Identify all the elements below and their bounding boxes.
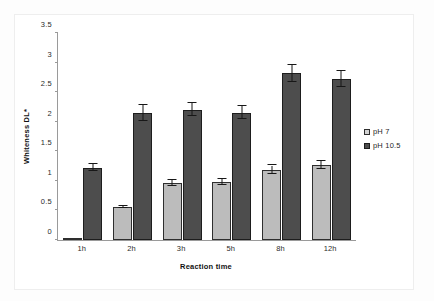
- y-axis-tick-label: 2.5: [41, 79, 52, 88]
- error-bar-cap-upper: [217, 178, 226, 179]
- bar-slot: [312, 165, 331, 240]
- plot-area: 00.511.522.533.5: [57, 33, 356, 241]
- legend-item[interactable]: pH 7: [364, 127, 401, 136]
- y-axis-tick-label: 0: [48, 227, 52, 236]
- error-bar-cap-upper: [337, 70, 346, 71]
- legend-item-label: pH 10.5: [373, 141, 401, 150]
- legend-swatch-icon: [364, 129, 370, 135]
- y-axis-tick-label: 2: [48, 108, 52, 117]
- bar-group: [157, 33, 207, 240]
- error-bar-cap-lower: [267, 173, 276, 174]
- error-bar-cap-upper: [88, 163, 97, 164]
- bar[interactable]: [113, 207, 132, 240]
- x-axis-tick-label: 1h: [57, 244, 107, 253]
- bar-groups: [58, 33, 356, 240]
- bar[interactable]: [133, 113, 152, 240]
- x-axis-tick-label: 3h: [156, 244, 206, 253]
- legend-item[interactable]: pH 10.5: [364, 141, 401, 150]
- bar-slot: [262, 170, 281, 240]
- error-bar: [142, 105, 143, 120]
- y-axis-tick-label: 1: [48, 167, 52, 176]
- error-bar-cap-lower: [168, 185, 177, 186]
- legend-item-label: pH 7: [373, 127, 390, 136]
- bar-group: [108, 33, 158, 240]
- y-axis-tick-label: 1.5: [41, 138, 52, 147]
- x-axis-tick-label: 2h: [107, 244, 157, 253]
- error-bar-cap-lower: [337, 86, 346, 87]
- bar-group: [207, 33, 257, 240]
- bar-slot: [232, 113, 251, 240]
- error-bar-cap-lower: [188, 115, 197, 116]
- bar[interactable]: [183, 110, 202, 240]
- bar[interactable]: [262, 170, 281, 240]
- bar-slot: [163, 183, 182, 240]
- bar[interactable]: [312, 165, 331, 240]
- bar-group: [306, 33, 356, 240]
- x-axis-title: Reaction time: [57, 262, 355, 271]
- error-bar-cap-upper: [168, 179, 177, 180]
- x-axis-tick-label: 8h: [256, 244, 306, 253]
- bar-slot: [63, 238, 82, 240]
- error-bar-cap-upper: [138, 104, 147, 105]
- bar-slot: [133, 113, 152, 240]
- bar[interactable]: [163, 183, 182, 240]
- bar-slot: [83, 168, 102, 240]
- bar[interactable]: [83, 168, 102, 240]
- x-axis-tick-label: 5h: [206, 244, 256, 253]
- error-bar-cap-lower: [118, 207, 127, 208]
- bar[interactable]: [282, 73, 301, 240]
- error-bar-cap-lower: [287, 81, 296, 82]
- y-axis-tick-label: 0.5: [41, 197, 52, 206]
- x-axis-ticks: 1h2h3h5h8h12h: [57, 244, 355, 253]
- bar-group: [58, 33, 108, 240]
- error-bar-cap-upper: [267, 164, 276, 165]
- error-bar-cap-lower: [217, 184, 226, 185]
- chart-legend: pH 7pH 10.5: [362, 125, 403, 157]
- error-bar-cap-upper: [287, 64, 296, 65]
- bar[interactable]: [332, 79, 351, 240]
- error-bar-cap-lower: [317, 168, 326, 169]
- bar-chart-figure: Whiteness DL* 00.511.522.533.5 1h2h3h5h8…: [0, 0, 434, 301]
- bar[interactable]: [63, 238, 82, 240]
- error-bar-cap-lower: [237, 118, 246, 119]
- legend-swatch-icon: [364, 143, 370, 149]
- error-bar-cap-upper: [317, 160, 326, 161]
- y-axis-title: Whiteness DL*: [20, 33, 34, 240]
- y-axis-tick-label: 3: [48, 49, 52, 58]
- y-axis-title-text: Whiteness DL*: [23, 109, 32, 164]
- bar-slot: [332, 79, 351, 240]
- bar-slot: [212, 182, 231, 240]
- bar-slot: [282, 73, 301, 240]
- error-bar-cap-lower: [138, 120, 147, 121]
- error-bar-cap-upper: [118, 205, 127, 206]
- error-bar-cap-lower: [88, 170, 97, 171]
- error-bar: [341, 71, 342, 88]
- x-axis-tick-label: 12h: [305, 244, 355, 253]
- y-axis-tick-label: 3.5: [41, 20, 52, 29]
- bar-slot: [183, 110, 202, 240]
- error-bar-cap-upper: [188, 102, 197, 103]
- bar-group: [257, 33, 307, 240]
- bar[interactable]: [212, 182, 231, 240]
- bar-slot: [113, 207, 132, 240]
- bar[interactable]: [232, 113, 251, 240]
- error-bar: [291, 65, 292, 82]
- error-bar-cap-upper: [237, 105, 246, 106]
